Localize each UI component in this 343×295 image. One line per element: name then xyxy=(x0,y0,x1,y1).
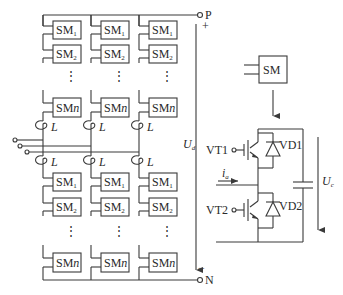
phase-legs: SM1SM2SMn⋮LLSM1SM2SMn⋮SM1SM2SMn⋮LLSM1SM2… xyxy=(36,15,178,280)
vt1-gate-terminal xyxy=(232,148,236,152)
diode-vd1: VD1 xyxy=(258,133,302,168)
phase-leg-phase-b: SM1SM2SMn⋮LLSM1SM2SMn⋮ xyxy=(84,15,130,280)
input-current: ia xyxy=(216,166,258,185)
submodule-n-lower-label: SMn xyxy=(56,256,79,270)
dc-voltage-label: Ud xyxy=(183,137,196,152)
capacitor xyxy=(293,182,313,188)
vt2-gate-terminal xyxy=(232,208,236,212)
upper-arm-inductor xyxy=(84,121,95,135)
ellipsis-dots: ⋮ xyxy=(113,69,125,83)
phase-leg-phase-a: SM1SM2SMn⋮LLSM1SM2SMn⋮ xyxy=(36,15,82,280)
vt2-label: VT2 xyxy=(206,203,228,217)
upper-arm-inductor xyxy=(132,121,143,135)
igbt-vt1: VT1 xyxy=(206,129,258,185)
vt1-label: VT1 xyxy=(206,143,228,157)
inductor-label: L xyxy=(50,155,58,169)
lower-arm-inductor xyxy=(84,156,95,170)
mmc-circuit-diagram: P + N − Ud SM1SM2SMn⋮LLSM1SM2SMn⋮SM1SM2S… xyxy=(0,0,343,295)
submodule-n-lower-label: SMn xyxy=(152,256,175,270)
lower-arm-inductor xyxy=(132,156,143,170)
submodule-n-upper-label: SMn xyxy=(104,101,127,115)
sm-detail-block: SM xyxy=(244,56,287,116)
positive-terminal xyxy=(198,13,203,18)
sm-detail-label: SM xyxy=(263,63,281,77)
half-bridge-circuit: Uc VT1 VD1 ia xyxy=(206,129,335,242)
negative-terminal-label: N xyxy=(205,273,214,287)
ac-terminal-c[interactable] xyxy=(25,150,29,154)
plus-sign: + xyxy=(202,19,209,33)
ac-terminal-a[interactable] xyxy=(13,138,17,142)
ac-terminals xyxy=(13,138,139,154)
dc-voltage-arrow: Ud xyxy=(183,24,196,270)
ellipsis-dots: ⋮ xyxy=(65,69,77,83)
negative-terminal xyxy=(198,278,203,283)
ellipsis-dots: ⋮ xyxy=(161,224,173,238)
phase-leg-phase-c: SM1SM2SMn⋮LLSM1SM2SMn⋮ xyxy=(132,15,178,280)
inductor-label: L xyxy=(146,155,154,169)
current-label: ia xyxy=(222,166,229,181)
diode-vd2: VD2 xyxy=(258,193,302,228)
inductor-label: L xyxy=(146,120,154,134)
igbt-vt2: VT2 xyxy=(206,185,258,242)
submodule-n-lower-label: SMn xyxy=(104,256,127,270)
vd1-label: VD1 xyxy=(279,138,302,152)
capacitor-voltage-label: Uc xyxy=(322,174,335,189)
submodule-n-upper-label: SMn xyxy=(152,101,175,115)
vd2-label: VD2 xyxy=(279,199,302,213)
submodule-n-upper-label: SMn xyxy=(56,101,79,115)
inductor-label: L xyxy=(98,120,106,134)
lower-arm-inductor xyxy=(36,156,47,170)
minus-sign: − xyxy=(198,261,205,275)
inductor-label: L xyxy=(98,155,106,169)
ellipsis-dots: ⋮ xyxy=(65,224,77,238)
ac-terminal-b[interactable] xyxy=(18,144,22,148)
ellipsis-dots: ⋮ xyxy=(161,69,173,83)
ellipsis-dots: ⋮ xyxy=(113,224,125,238)
upper-arm-inductor xyxy=(36,121,47,135)
inductor-label: L xyxy=(50,120,58,134)
